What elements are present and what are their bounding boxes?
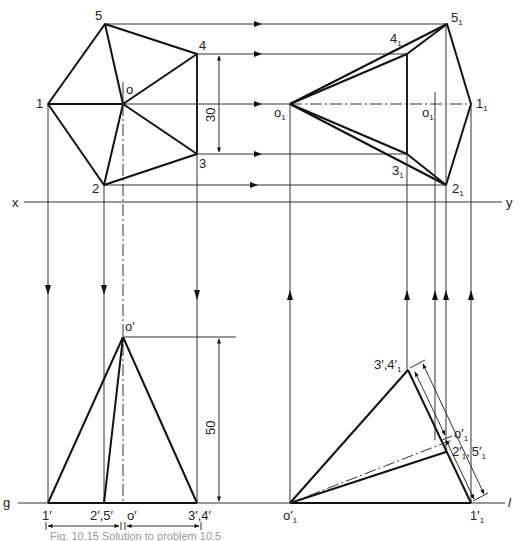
svg-text:1′1: 1′1 xyxy=(470,508,485,525)
svg-text:51: 51 xyxy=(451,10,463,27)
svg-text:50: 50 xyxy=(203,421,218,435)
svg-text:o: o xyxy=(126,82,133,97)
svg-text:11: 11 xyxy=(476,96,488,113)
svg-text:o1: o1 xyxy=(274,105,286,122)
aux-front-dimension-lines xyxy=(410,360,488,501)
svg-text:3′,4′1: 3′,4′1 xyxy=(374,357,402,374)
svg-text:o′: o′ xyxy=(125,319,135,334)
svg-text:1′: 1′ xyxy=(42,508,52,523)
svg-text:g: g xyxy=(3,495,10,510)
svg-text:l: l xyxy=(508,495,512,510)
svg-text:21: 21 xyxy=(452,181,464,198)
svg-text:4: 4 xyxy=(199,38,206,53)
orthographic-drawing: 5 4 1 o 3 2 30 51 41 o1 o1 11 31 21 x y xyxy=(0,0,528,541)
front-view-triangle xyxy=(18,337,262,503)
reference-line-xy: x y xyxy=(12,195,513,210)
figure-caption: Fig. 10.15 Solution to problem 10.5 xyxy=(50,530,221,541)
svg-text:2′,5′: 2′,5′ xyxy=(90,508,114,523)
svg-text:2: 2 xyxy=(92,181,99,196)
svg-text:41: 41 xyxy=(390,31,402,48)
aux-front-view xyxy=(262,370,505,503)
svg-text:x: x xyxy=(12,195,19,210)
front-view-labels: g o′ 1′ 2′,5′ o′ 3′,4′ xyxy=(3,319,212,523)
svg-text:o′: o′ xyxy=(127,508,137,523)
svg-text:30: 30 xyxy=(203,108,218,122)
dimension-50: 50 xyxy=(203,339,219,501)
top-view-labels: 5 4 1 o 3 2 xyxy=(36,8,206,196)
svg-text:5: 5 xyxy=(95,8,102,23)
svg-text:o′1: o′1 xyxy=(283,508,298,525)
svg-text:o′1: o′1 xyxy=(454,426,469,443)
svg-text:y: y xyxy=(506,195,513,210)
svg-text:3: 3 xyxy=(199,156,206,171)
svg-text:3′,4′: 3′,4′ xyxy=(188,508,212,523)
vertical-projectors-right xyxy=(287,24,474,503)
svg-text:2′1,5′1: 2′1,5′1 xyxy=(452,444,486,461)
top-view-pentagon xyxy=(48,24,197,503)
svg-text:1: 1 xyxy=(36,96,43,111)
svg-text:31: 31 xyxy=(392,163,404,180)
svg-text:o1: o1 xyxy=(422,105,434,122)
base-dimensions xyxy=(46,522,201,530)
